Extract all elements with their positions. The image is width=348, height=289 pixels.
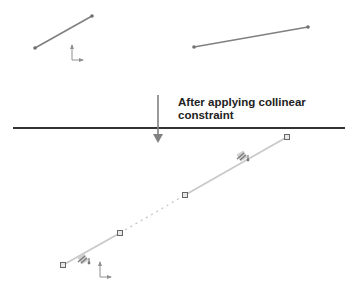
line-2 (192, 25, 310, 49)
endpoint-handle[interactable] (183, 193, 188, 198)
caption-line-2: constraint (178, 109, 306, 122)
before-constraint-lines (33, 14, 310, 62)
collinear-constraint-icon-1[interactable] (237, 151, 250, 162)
endpoint (192, 45, 196, 49)
endpoint-handle[interactable] (285, 135, 290, 140)
down-arrow-icon (153, 95, 163, 143)
coordinate-axes-icon (70, 44, 84, 62)
collinear-segment (185, 137, 287, 195)
endpoint (306, 25, 310, 29)
endpoint (33, 46, 37, 50)
endpoint-handle[interactable] (118, 231, 123, 236)
extension-dashed-line (120, 195, 185, 233)
line-1 (33, 14, 94, 50)
coordinate-axes-icon (98, 261, 112, 279)
after-constraint-lines (61, 135, 290, 280)
caption-line-1: After applying collinear (178, 96, 306, 109)
endpoint (90, 14, 94, 18)
caption: After applying collinear constraint (178, 96, 306, 122)
diagram-canvas (0, 0, 348, 289)
collinear-segment (63, 233, 120, 265)
endpoint-handle[interactable] (61, 263, 66, 268)
